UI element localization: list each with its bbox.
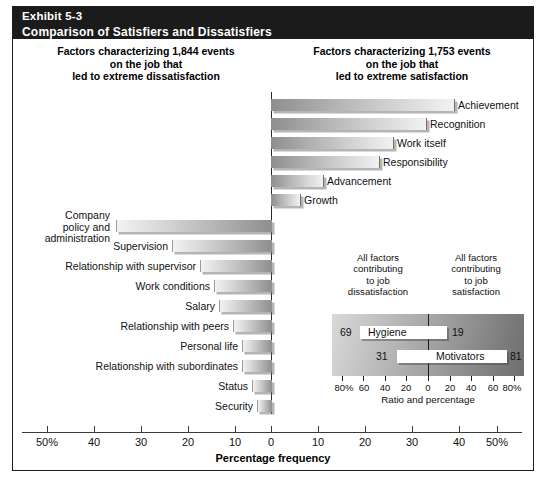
heading-dissatisfaction: Factors characterizing 1,844 events on t… — [22, 45, 270, 83]
bar-personal-life — [242, 340, 272, 352]
heading-satisfaction-line1: Factors characterizing 1,753 events — [278, 45, 526, 58]
bar-label-growth: Growth — [304, 193, 338, 208]
axis-tick-label-7: 20 — [359, 436, 371, 448]
inset-tick-label-0: 80% — [334, 382, 353, 393]
axis-tick-label-9: 40 — [453, 436, 465, 448]
column-headings: Factors characterizing 1,844 events on t… — [12, 45, 534, 93]
heading-dissatisfaction-line2: on the job that — [22, 58, 270, 71]
inset-heading-satisfaction-line3: to job — [430, 275, 522, 286]
axis-tick-label-0: 50% — [36, 436, 58, 448]
exhibit-figure: Exhibit 5-3 Comparison of Satisfiers and… — [0, 0, 546, 488]
axis-tick-label-8: 30 — [406, 436, 418, 448]
inset-label-motivators: Motivators — [436, 350, 484, 363]
inset-tick-label-8: 80% — [502, 382, 521, 393]
axis-tick-label-4: 10 — [229, 436, 241, 448]
inset-heading-satisfaction-line1: All factors — [430, 252, 522, 263]
bar-advancement — [271, 175, 324, 187]
axis-tick-label-3: 20 — [182, 436, 194, 448]
bar-label-rel-supervisor: Relationship with supervisor — [32, 259, 196, 274]
bar-label-responsibility: Responsibility — [383, 155, 448, 170]
inset-label-hygiene: Hygiene — [368, 326, 407, 339]
inset-heading-dissatisfaction-line3: to job — [332, 275, 424, 286]
axis-tick-label-1: 40 — [88, 436, 100, 448]
bar-company-policy — [116, 220, 272, 232]
inset-bar-motivators-left — [397, 350, 428, 363]
inset-tick-label-3: 20 — [401, 382, 412, 393]
bar-label-recognition: Recognition — [430, 117, 485, 132]
bar-row-responsibility: Responsibility — [12, 155, 534, 172]
inset-chart-box: 69 Hygiene 19 31 Motivators 81 — [332, 314, 524, 376]
heading-satisfaction: Factors characterizing 1,753 events on t… — [278, 45, 526, 83]
inset-tick-label-6: 40 — [466, 382, 477, 393]
inset-heading-satisfaction-line2: contributing — [430, 263, 522, 274]
exhibit-title-bar: Exhibit 5-3 Comparison of Satisfiers and… — [12, 6, 534, 39]
inset-zero-line — [428, 314, 429, 376]
bar-label-personal-life: Personal life — [112, 339, 238, 354]
heading-dissatisfaction-line1: Factors characterizing 1,844 events — [22, 45, 270, 58]
bar-responsibility — [271, 156, 380, 168]
bar-rel-supervisor — [200, 260, 272, 272]
inset-axis-title: Ratio and percentage — [332, 394, 524, 405]
inset-heading-dissatisfaction-line2: contributing — [332, 263, 424, 274]
inset-value-motivators-right: 81 — [510, 350, 522, 363]
inset-panel: All factors contributing to job dissatis… — [330, 252, 528, 410]
axis-tick-label-6: 10 — [312, 436, 324, 448]
bar-row-growth: Growth — [12, 193, 534, 210]
bar-row-advancement: Advancement — [12, 174, 534, 191]
bar-recognition — [271, 118, 427, 130]
inset-tick-label-4: 0 — [425, 382, 430, 393]
bar-rel-peers — [233, 320, 272, 332]
bar-row-company-policy: Company policy and administration — [12, 219, 534, 236]
inset-heading-satisfaction-line4: satisfaction — [430, 286, 522, 297]
inset-heading-dissatisfaction-line1: All factors — [332, 252, 424, 263]
axis-tick-label-10: 50% — [486, 436, 508, 448]
bar-rel-subordinates — [242, 360, 272, 372]
bar-status — [252, 380, 272, 392]
inset-tick-label-5: 20 — [445, 382, 456, 393]
heading-dissatisfaction-line3: led to extreme dissatisfaction — [22, 70, 270, 83]
bar-row-work-itself: Work itself — [12, 136, 534, 153]
heading-satisfaction-line3: led to extreme satisfaction — [278, 70, 526, 83]
bar-label-status: Status — [122, 379, 248, 394]
bar-supervision — [172, 240, 272, 252]
bar-label-rel-subordinates: Relationship with subordinates — [52, 359, 238, 374]
bar-label-work-itself: Work itself — [397, 136, 446, 151]
bar-label-salary: Salary — [92, 299, 215, 314]
inset-tick-label-2: 40 — [380, 382, 391, 393]
inset-value-hygiene-left: 69 — [340, 326, 352, 339]
bar-label-security: Security — [112, 399, 253, 414]
axis-tick-label-2: 30 — [135, 436, 147, 448]
bar-salary — [219, 300, 272, 312]
heading-satisfaction-line2: on the job that — [278, 58, 526, 71]
bar-work-itself — [271, 137, 394, 149]
inset-heading-dissatisfaction-line4: dissatisfaction — [332, 286, 424, 297]
inset-heading-dissatisfaction: All factors contributing to job dissatis… — [332, 252, 424, 298]
bar-label-company-policy-line1: Company — [12, 210, 110, 222]
inset-value-motivators-left: 31 — [376, 350, 388, 363]
axis-tick-label-5: 0 — [268, 436, 274, 448]
main-axis-line — [22, 432, 522, 433]
bar-label-work-conditions: Work conditions — [72, 279, 210, 294]
bar-work-conditions — [214, 280, 272, 292]
bar-row-achievement: Achievement — [12, 98, 534, 115]
exhibit-number: Exhibit 5-3 — [22, 9, 534, 23]
bar-label-advancement: Advancement — [327, 174, 391, 189]
inset-heading-satisfaction: All factors contributing to job satisfac… — [430, 252, 522, 298]
inset-value-hygiene-right: 19 — [452, 326, 464, 339]
inset-tick-label-1: 60 — [359, 382, 370, 393]
inset-bar-hygiene-right — [428, 326, 447, 339]
exhibit-title: Comparison of Satisfiers and Dissatisfie… — [22, 25, 534, 39]
bar-label-rel-peers: Relationship with peers — [72, 319, 229, 334]
inset-axis: 80% 60 40 20 0 20 40 60 80% — [332, 376, 524, 388]
bar-label-achievement: Achievement — [458, 98, 519, 113]
inset-tick-label-7: 60 — [488, 382, 499, 393]
bar-security — [257, 400, 272, 412]
bar-achievement — [271, 99, 455, 111]
bar-label-supervision: Supervision — [42, 239, 168, 254]
bar-row-recognition: Recognition — [12, 117, 534, 134]
bar-growth — [271, 194, 301, 206]
axis-title: Percentage frequency — [0, 452, 546, 464]
